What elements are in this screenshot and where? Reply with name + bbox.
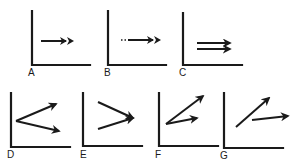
panel-label-f: F	[155, 149, 161, 160]
arrow-e-upper	[98, 102, 133, 118]
arrow-d-up	[16, 104, 56, 121]
panel-label-b: B	[104, 67, 111, 78]
panel-d: D	[7, 93, 70, 160]
panel-f: F	[155, 93, 218, 160]
double-arrowhead-a	[60, 37, 74, 45]
panel-c: C	[179, 13, 242, 78]
panel-label-d: D	[7, 149, 14, 160]
arrow-g-steep	[236, 98, 269, 127]
panel-e: E	[80, 93, 142, 160]
panel-g: G	[220, 93, 288, 161]
arrow-e-lower	[98, 118, 133, 129]
panel-label-c: C	[179, 67, 186, 78]
panel-label-e: E	[80, 149, 87, 160]
axes-e	[83, 93, 142, 146]
panel-b: B	[104, 11, 166, 78]
arrow-g-flat	[252, 116, 288, 120]
double-arrowhead-b	[147, 36, 161, 44]
axes-c	[183, 13, 242, 65]
panel-label-g: G	[220, 150, 228, 161]
panel-a: A	[28, 11, 90, 78]
arrow-d-down	[16, 121, 59, 131]
panel-label-a: A	[28, 67, 35, 78]
